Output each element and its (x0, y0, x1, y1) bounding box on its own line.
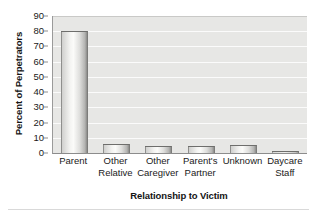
y-axis-ticks: 0102030405060708090 (22, 10, 48, 155)
y-axis-tick-mark (44, 92, 48, 93)
bottom-divider (8, 209, 309, 210)
bar-daycare-staff (272, 151, 299, 153)
bar-other-relative (103, 144, 130, 153)
x-axis-title: Relationship to Victim (52, 190, 306, 201)
y-axis-tick-label: 80 (22, 26, 44, 36)
y-axis-tick-label: 10 (22, 133, 44, 143)
y-axis-tick-label: 30 (22, 103, 44, 113)
x-label-line-1: Parent (59, 155, 87, 166)
y-axis-tick-mark (44, 76, 48, 77)
x-label-line-1: Parent's (183, 155, 218, 166)
y-axis-tick-label: 60 (22, 57, 44, 67)
y-axis-tick-label: 50 (22, 72, 44, 82)
y-axis-tick-label: 0 (22, 148, 44, 158)
x-label-line-1: Unknown (223, 155, 263, 166)
bar-parent (61, 31, 88, 153)
y-axis-tick-mark (44, 61, 48, 62)
y-axis-tick-label: 40 (22, 87, 44, 97)
bar-unknown (230, 145, 257, 153)
y-axis-tick-label: 90 (22, 11, 44, 21)
x-label-line-2: Caregiver (137, 167, 179, 179)
bar-other-caregiver (145, 146, 172, 153)
x-label-line-2: Relative (94, 167, 136, 179)
y-axis-tick-mark (44, 16, 48, 17)
bars-layer (53, 16, 307, 153)
x-axis-tick-labels: ParentOtherRelativeOtherCaregiverParent'… (52, 155, 306, 187)
x-label-line-1: Other (104, 155, 128, 166)
x-label-line-1: Other (146, 155, 170, 166)
y-axis-tick-mark (44, 153, 48, 154)
x-axis-tick-label: Parent (52, 155, 94, 167)
x-axis-tick-label: OtherRelative (94, 155, 136, 178)
plot-area (52, 16, 307, 154)
bar-parent-s-partner (188, 146, 215, 153)
bar-chart: Percent of Perpetrators 0102030405060708… (0, 0, 317, 217)
x-axis-tick-label: DaycareStaff (264, 155, 306, 178)
y-axis-tick-mark (44, 31, 48, 32)
y-axis-tick-mark (44, 122, 48, 123)
y-axis-tick-label: 70 (22, 42, 44, 52)
x-label-line-2: Partner (179, 167, 221, 179)
x-label-line-2: Staff (264, 167, 306, 179)
y-axis-tick-mark (44, 137, 48, 138)
x-axis-tick-label: OtherCaregiver (137, 155, 179, 178)
x-axis-tick-label: Parent'sPartner (179, 155, 221, 178)
y-axis-tick-mark (44, 46, 48, 47)
y-axis-tick-label: 20 (22, 118, 44, 128)
y-axis-tick-mark (44, 107, 48, 108)
x-label-line-1: Daycare (267, 155, 302, 166)
x-axis-tick-label: Unknown (221, 155, 263, 167)
